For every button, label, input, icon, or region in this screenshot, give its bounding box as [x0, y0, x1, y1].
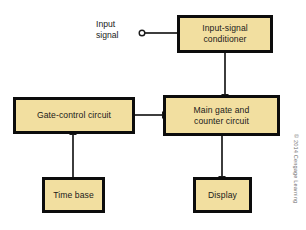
block-gate-control-circuit[interactable]: Gate-control circuit [13, 97, 135, 134]
block-main-gate-counter-circuit[interactable]: Main gate and counter circuit [163, 95, 280, 136]
block-display[interactable]: Display [193, 177, 252, 213]
block-input-signal-conditioner[interactable]: Input-signal conditioner [177, 15, 273, 53]
block-diagram-figure: Input signal Input-signal conditioner Ga… [0, 0, 306, 230]
block-label: Gate-control circuit [37, 110, 111, 121]
block-label: Input-signal conditioner [202, 23, 248, 45]
block-label: Display [208, 190, 237, 201]
copyright-credit: © 2014 Cengage Learning [287, 134, 299, 218]
input-signal-label: Input signal [96, 19, 140, 41]
input-signal-terminal-icon [139, 30, 145, 36]
block-label: Time base [53, 190, 94, 201]
block-time-base[interactable]: Time base [42, 177, 105, 213]
block-label: Main gate and counter circuit [194, 105, 250, 127]
